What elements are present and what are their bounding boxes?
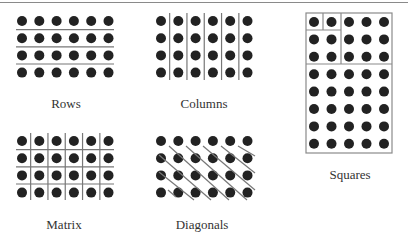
dot [362,87,372,97]
dot [52,68,62,78]
dot [86,50,96,60]
dot [208,136,218,146]
dot [225,68,235,78]
dot [225,153,235,163]
dot [191,33,201,43]
dot [379,17,389,27]
columns-label: Columns [181,96,228,112]
dot [69,68,79,78]
dot [34,136,44,146]
dot [309,69,319,79]
dot [208,33,218,43]
dot [86,33,96,43]
dot [327,52,337,62]
matrix-diagram [16,133,114,200]
rows-diagram [16,16,114,78]
dot [86,68,96,78]
dot [362,52,372,62]
dot [17,68,27,78]
dot [173,50,183,60]
dot [309,139,319,149]
dot [309,34,319,44]
dot [104,68,114,78]
dot [309,17,319,27]
dot [327,87,337,97]
dot [327,139,337,149]
dot [34,188,44,198]
dot [34,33,44,43]
dot [104,16,114,26]
dot [69,170,79,180]
dot [243,153,253,163]
dot [52,153,62,163]
dot [156,170,166,180]
dot [17,50,27,60]
dot [104,50,114,60]
dot [156,188,166,198]
dot [156,68,166,78]
dot [379,52,389,62]
dot [208,50,218,60]
dot [327,17,337,27]
dot [52,16,62,26]
dot [309,52,319,62]
dot [104,170,114,180]
squares-diagram [306,13,392,153]
dot [69,153,79,163]
diagonals-diagram [156,136,255,200]
dot [208,68,218,78]
dot [173,33,183,43]
dot [243,33,253,43]
dot [52,33,62,43]
dot [86,16,96,26]
dot [52,136,62,146]
dot [344,139,354,149]
dot [69,136,79,146]
dot [52,170,62,180]
dot [379,139,389,149]
dot [86,188,96,198]
dot [69,16,79,26]
dot [156,50,166,60]
dot [191,50,201,60]
dot [86,153,96,163]
dot [17,188,27,198]
dot [309,87,319,97]
dot [225,136,235,146]
dot [344,104,354,114]
dot [362,104,372,114]
dot [173,16,183,26]
dot-pattern-figure [0,0,408,247]
dot [243,68,253,78]
dot [104,33,114,43]
squares-outer-border [306,13,392,153]
dot [104,153,114,163]
dot [243,188,253,198]
dot [156,153,166,163]
dot [34,50,44,60]
matrix-label: Matrix [46,217,81,233]
columns-diagram [156,13,253,80]
dot [344,121,354,131]
dot [309,121,319,131]
dot [379,34,389,44]
dot [17,16,27,26]
dot [69,50,79,60]
squares-label: Squares [329,167,370,183]
rows-label: Rows [51,96,81,112]
dot [52,188,62,198]
dot [327,121,337,131]
dot [17,33,27,43]
dot [156,16,166,26]
dot [327,104,337,114]
dot [86,136,96,146]
dot [34,68,44,78]
dot [344,17,354,27]
dot [173,136,183,146]
dot [225,33,235,43]
dot [243,50,253,60]
dot [379,121,389,131]
dot [243,16,253,26]
dot [362,34,372,44]
dot [309,104,319,114]
